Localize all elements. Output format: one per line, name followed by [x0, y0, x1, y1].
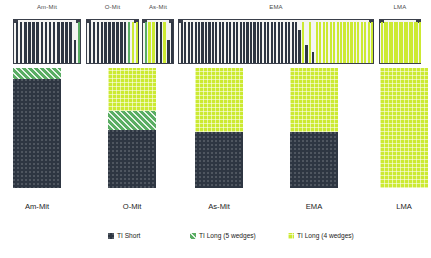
specimen-bar[interactable]: [404, 22, 406, 63]
specimen-bar[interactable]: [274, 22, 276, 63]
legend-item-long5[interactable]: TI Long (5 wedges): [190, 232, 256, 239]
specimen-bar[interactable]: [368, 22, 370, 63]
specimen-bar[interactable]: [319, 22, 321, 63]
specimen-bar[interactable]: [394, 22, 396, 63]
specimen-bar[interactable]: [264, 22, 266, 63]
specimen-bar[interactable]: [316, 22, 318, 63]
specimen-bar[interactable]: [419, 22, 421, 63]
specimen-bar[interactable]: [401, 22, 403, 63]
specimen-group-o-mit[interactable]: [86, 19, 139, 64]
specimen-bar[interactable]: [145, 22, 147, 63]
specimen-bar[interactable]: [16, 22, 19, 63]
specimen-bar[interactable]: [399, 22, 401, 63]
stack-segment-short[interactable]: [290, 132, 338, 188]
specimen-bar[interactable]: [250, 22, 252, 63]
specimen-bar[interactable]: [288, 22, 290, 63]
specimen-bar[interactable]: [215, 22, 217, 63]
specimen-bar[interactable]: [278, 22, 280, 63]
specimen-bar[interactable]: [326, 22, 328, 63]
specimen-bar[interactable]: [350, 22, 352, 63]
specimen-bar[interactable]: [152, 22, 154, 63]
stack-segment-long5[interactable]: [108, 111, 156, 130]
specimen-bar[interactable]: [364, 22, 366, 63]
specimen-bar[interactable]: [20, 22, 23, 63]
specimen-bar[interactable]: [201, 22, 203, 63]
specimen-bar[interactable]: [136, 22, 138, 63]
specimen-group-lma[interactable]: [379, 19, 421, 64]
specimen-bar[interactable]: [205, 22, 207, 63]
specimen-bar[interactable]: [171, 22, 173, 63]
specimen-bar[interactable]: [156, 22, 158, 63]
specimen-bar[interactable]: [295, 22, 297, 63]
specimen-bar[interactable]: [61, 22, 64, 63]
specimen-bar[interactable]: [411, 22, 413, 63]
specimen-bar[interactable]: [309, 22, 311, 63]
specimen-bar[interactable]: [97, 22, 99, 63]
specimen-bar[interactable]: [391, 22, 393, 63]
specimen-bar[interactable]: [219, 22, 221, 63]
specimen-bar[interactable]: [357, 22, 359, 63]
specimen-bar[interactable]: [120, 22, 122, 63]
specimen-bar[interactable]: [260, 22, 262, 63]
specimen-bar[interactable]: [312, 52, 314, 63]
specimen-group-am-mit[interactable]: [13, 19, 81, 64]
specimen-bar[interactable]: [330, 22, 332, 63]
stack-segment-short[interactable]: [195, 132, 243, 188]
specimen-bar[interactable]: [49, 22, 52, 63]
specimen-bar[interactable]: [163, 22, 165, 63]
specimen-bar[interactable]: [28, 22, 31, 63]
stack-segment-short[interactable]: [108, 130, 156, 188]
specimen-bar[interactable]: [112, 22, 114, 63]
stack-segment-long4[interactable]: [380, 68, 428, 188]
specimen-bar[interactable]: [89, 22, 91, 63]
specimen-bar[interactable]: [333, 22, 335, 63]
specimen-bar[interactable]: [347, 22, 349, 63]
specimen-bar[interactable]: [340, 22, 342, 63]
stack-segment-long4[interactable]: [290, 68, 338, 132]
specimen-bar[interactable]: [69, 22, 72, 63]
specimen-bar[interactable]: [271, 22, 273, 63]
specimen-bar[interactable]: [222, 22, 224, 63]
legend-item-long4[interactable]: TI Long (4 wedges): [288, 232, 354, 239]
specimen-bar[interactable]: [104, 22, 106, 63]
specimen-bar[interactable]: [93, 22, 95, 63]
specimen-bar[interactable]: [65, 22, 68, 63]
specimen-bar[interactable]: [343, 22, 345, 63]
specimen-bar[interactable]: [298, 30, 300, 63]
specimen-bar[interactable]: [78, 22, 81, 63]
specimen-bar[interactable]: [57, 22, 60, 63]
specimen-bar[interactable]: [371, 22, 373, 63]
specimen-bar[interactable]: [160, 22, 162, 63]
specimen-bar[interactable]: [243, 22, 245, 63]
legend-item-short[interactable]: TI Short: [108, 232, 140, 239]
stack-segment-long5[interactable]: [13, 68, 61, 79]
specimen-bar[interactable]: [208, 22, 210, 63]
specimen-bar[interactable]: [409, 22, 411, 63]
specimen-bar[interactable]: [257, 22, 259, 63]
specimen-bar[interactable]: [354, 22, 356, 63]
specimen-bar[interactable]: [195, 22, 197, 63]
specimen-bar[interactable]: [36, 22, 39, 63]
specimen-bar[interactable]: [246, 22, 248, 63]
stacked-bar-as-mit[interactable]: [195, 68, 243, 188]
specimen-group-ema[interactable]: [178, 19, 374, 64]
specimen-bar[interactable]: [253, 22, 255, 63]
specimen-bar[interactable]: [128, 22, 130, 63]
specimen-bar[interactable]: [406, 22, 408, 63]
stack-segment-long4[interactable]: [108, 68, 156, 111]
specimen-bar[interactable]: [305, 45, 307, 63]
specimen-bar[interactable]: [323, 22, 325, 63]
stack-segment-long4[interactable]: [195, 68, 243, 132]
stacked-bar-am-mit[interactable]: [13, 68, 61, 188]
specimen-bar[interactable]: [285, 22, 287, 63]
specimen-bar[interactable]: [229, 22, 231, 63]
specimen-bar[interactable]: [132, 22, 134, 63]
specimen-group-as-mit[interactable]: [142, 19, 174, 64]
stacked-bar-o-mit[interactable]: [108, 68, 156, 188]
specimen-bar[interactable]: [45, 22, 48, 63]
specimen-bar[interactable]: [101, 22, 103, 63]
specimen-bar[interactable]: [74, 40, 77, 63]
specimen-bar[interactable]: [53, 22, 56, 63]
specimen-bar[interactable]: [389, 22, 391, 63]
specimen-bar[interactable]: [240, 22, 242, 63]
